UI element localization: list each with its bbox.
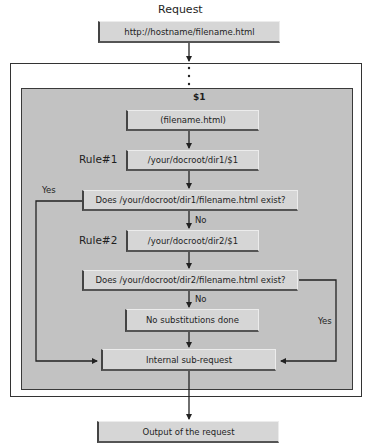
- request-title: Request: [158, 3, 203, 16]
- check2-text: Does /your/docroot/dir2/filename.html ex…: [95, 275, 285, 285]
- internal-subrequest-box: Internal sub-request: [101, 349, 276, 371]
- no-substitutions-text: No substitutions done: [146, 315, 239, 325]
- rule1-target-box: /your/docroot/dir1/$1: [126, 150, 259, 171]
- internal-subrequest-text: Internal sub-request: [146, 355, 232, 365]
- rule2-target-text: /your/docroot/dir2/$1: [148, 236, 238, 246]
- variable-label: $1: [193, 92, 206, 102]
- rule2-label: Rule#2: [79, 234, 117, 246]
- output-box: Output of the request: [97, 421, 279, 443]
- check1-decision-box: Does /your/docroot/dir1/filename.html ex…: [82, 190, 298, 211]
- request-url-box: http://hostname/filename.html: [98, 21, 280, 43]
- check2-decision-box: Does /your/docroot/dir2/filename.html ex…: [82, 270, 298, 291]
- rule2-target-box: /your/docroot/dir2/$1: [126, 230, 259, 252]
- no-substitutions-box: No substitutions done: [125, 309, 259, 332]
- check2-no-label: No: [195, 294, 207, 304]
- capture-box: (filename.html): [126, 110, 259, 131]
- capture-text: (filename.html): [160, 115, 226, 125]
- output-text: Output of the request: [142, 427, 234, 437]
- rule1-label: Rule#1: [79, 153, 117, 165]
- check1-yes-label: Yes: [42, 185, 56, 195]
- rule1-target-text: /your/docroot/dir1/$1: [148, 155, 238, 165]
- check1-no-label: No: [195, 215, 207, 225]
- check1-text: Does /your/docroot/dir1/filename.html ex…: [95, 195, 285, 205]
- request-url-text: http://hostname/filename.html: [124, 27, 254, 37]
- check2-yes-label: Yes: [318, 316, 332, 326]
